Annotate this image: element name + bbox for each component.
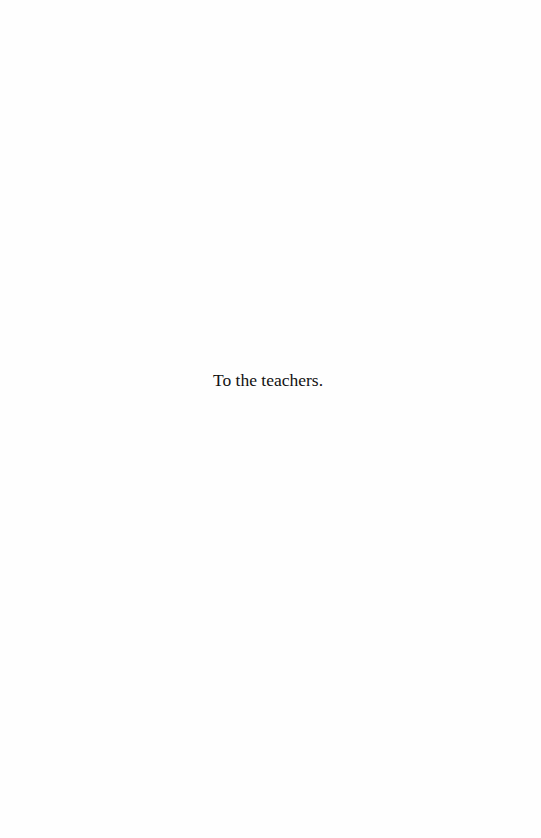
- dedication-text: To the teachers.: [213, 369, 323, 391]
- book-page: To the teachers.: [0, 0, 541, 838]
